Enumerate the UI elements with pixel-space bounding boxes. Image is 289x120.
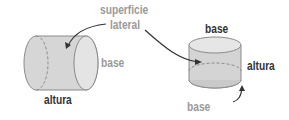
lateral-surface-label-line2: lateral <box>110 19 140 31</box>
right-bottom-base-label: base <box>187 101 210 113</box>
left-base-label: base <box>101 57 124 69</box>
right-height-label: altura <box>247 60 275 72</box>
horizontal-cylinder <box>24 36 98 90</box>
right-top-base-label: base <box>205 23 228 35</box>
left-height-label: altura <box>44 94 72 106</box>
lateral-surface-label-line1: superficie <box>100 4 148 16</box>
